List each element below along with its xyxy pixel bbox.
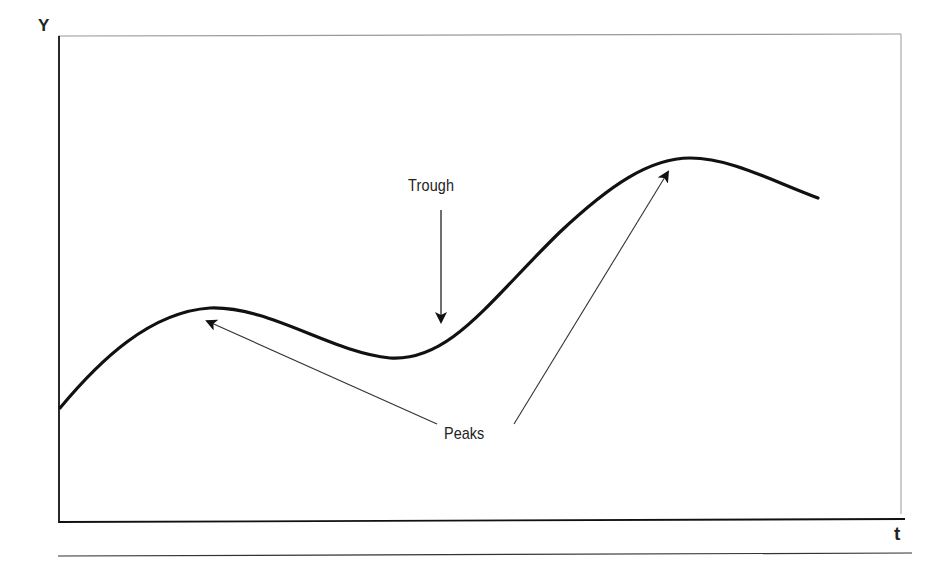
business-cycle-diagram [0, 0, 945, 563]
y-axis-label: Y [38, 16, 49, 36]
peak-arrow-right [514, 172, 668, 424]
trough-label: Trough [408, 176, 454, 196]
x-axis-line [59, 519, 905, 522]
bottom-rule [58, 553, 912, 556]
peaks-label: Peaks [444, 424, 484, 444]
frame-top [58, 34, 901, 36]
peak-arrow-left [207, 321, 437, 424]
x-axis-label: t [894, 523, 900, 545]
